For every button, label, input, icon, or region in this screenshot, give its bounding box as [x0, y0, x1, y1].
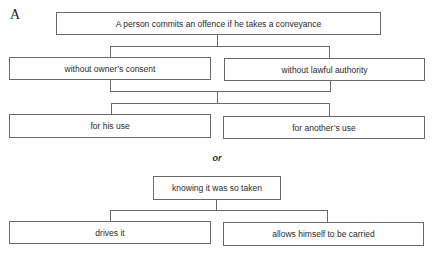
connector-line: [110, 210, 328, 211]
level2-text-left: for his use: [90, 121, 129, 131]
level2-text-right: for another’s use: [292, 123, 355, 133]
connector-line: [110, 91, 331, 92]
connector-line: [110, 210, 111, 221]
connector-line: [327, 210, 328, 222]
connector-line: [329, 103, 330, 116]
secondary-root-box: knowing it was so taken: [153, 176, 281, 200]
footer-caption: [310, 245, 424, 253]
connector-line: [111, 103, 330, 104]
connector-line: [110, 46, 111, 57]
or-connector: or: [205, 153, 229, 163]
secondary-root-text: knowing it was so taken: [172, 183, 262, 193]
level1-text-right: without lawful authority: [282, 65, 368, 75]
level2-box-right: for another’s use: [223, 116, 425, 139]
secondary-child-box-left: drives it: [9, 221, 211, 244]
root-text: A person commits an offence if he takes …: [116, 19, 321, 29]
secondary-child-box-right: allows himself to be carried: [223, 222, 424, 246]
connector-line: [111, 103, 112, 114]
secondary-child-text-left: drives it: [95, 228, 124, 238]
connector-line: [329, 46, 330, 58]
root-box: A person commits an offence if he takes …: [56, 12, 381, 35]
level1-box-right: without lawful authority: [224, 58, 425, 81]
connector-line: [110, 46, 330, 47]
level2-box-left: for his use: [9, 114, 211, 138]
level1-box-left: without owner’s consent: [9, 57, 211, 80]
secondary-child-text-right: allows himself to be carried: [272, 229, 375, 239]
level1-text-left: without owner’s consent: [65, 64, 156, 74]
figure-label: A: [10, 7, 20, 23]
